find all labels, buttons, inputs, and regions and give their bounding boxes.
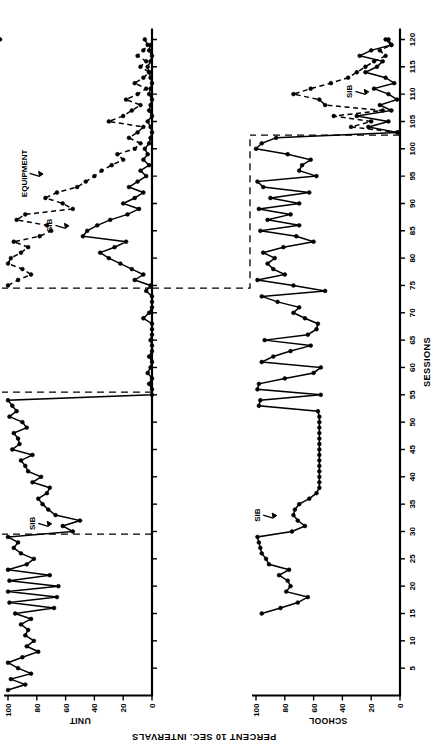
unit-data-point — [36, 496, 40, 500]
unit-annotation-label: EQUIPMENT — [20, 149, 29, 197]
x-tick-label: 100 — [408, 141, 417, 155]
school-data-point — [317, 97, 321, 101]
x-tick-label: 10 — [408, 635, 417, 644]
school-data-point — [306, 332, 310, 336]
unit-annotation-arrow — [30, 173, 40, 176]
school-data-point — [317, 436, 321, 440]
unit-annotation-arrow — [55, 225, 65, 228]
unit-data-point — [141, 190, 145, 194]
unit-data-point — [100, 168, 104, 172]
x-tick-label: 90 — [408, 198, 417, 207]
unit-axis-frame — [4, 28, 152, 695]
x-tick-label: 110 — [408, 87, 417, 100]
school-data-point — [319, 365, 323, 369]
school-y-tick-label: 0 — [396, 702, 405, 707]
x-tick-label: 45 — [408, 444, 417, 453]
school-data-point — [389, 108, 393, 112]
unit-data-point — [6, 589, 10, 593]
unit-y-tick-label: 100 — [4, 702, 13, 716]
school-data-point — [256, 179, 260, 183]
school-y-tick-label: 80 — [281, 702, 290, 711]
school-data-point — [346, 75, 350, 79]
unit-data-point — [98, 250, 102, 254]
unit-data-point — [16, 666, 20, 670]
unit-data-point — [113, 245, 117, 249]
school-y-tick-label: 40 — [338, 702, 347, 711]
school-data-point — [257, 381, 261, 385]
x-axis-title: SESSIONS — [422, 336, 432, 386]
unit-data-point — [78, 518, 82, 522]
unit-y-tick-label: 40 — [90, 702, 99, 711]
school-series-sib — [256, 39, 397, 613]
school-data-point — [279, 606, 283, 610]
unit-data-point — [19, 622, 23, 626]
unit-data-point — [36, 649, 40, 653]
school-data-point — [296, 600, 300, 604]
unit-data-point — [110, 163, 114, 167]
unit-annotation-arrowhead — [39, 171, 44, 176]
unit-data-point — [133, 81, 137, 85]
school-data-point — [317, 425, 321, 429]
unit-data-point — [150, 327, 154, 331]
unit-data-point — [6, 535, 10, 539]
unit-data-point — [130, 108, 134, 112]
unit-data-point — [95, 223, 99, 227]
unit-data-point — [141, 125, 145, 129]
x-tick-label: 75 — [408, 280, 417, 289]
school-data-point — [271, 354, 275, 358]
x-tick-label: 50 — [408, 417, 417, 426]
unit-data-point — [133, 196, 137, 200]
x-tick-label: 70 — [408, 307, 417, 316]
school-data-point — [307, 190, 311, 194]
unit-data-point — [108, 217, 112, 221]
school-data-point — [317, 420, 321, 424]
unit-data-point — [84, 179, 88, 183]
school-data-point — [292, 92, 296, 96]
school-data-point — [306, 595, 310, 599]
unit-data-point — [127, 185, 131, 189]
school-data-point — [349, 125, 353, 129]
unit-data-point — [150, 130, 154, 134]
figure-root: 0204060801000204060801005101520253035404… — [0, 0, 448, 753]
unit-data-point — [147, 108, 151, 112]
unit-data-point — [144, 86, 148, 90]
school-annotation-arrowhead — [364, 89, 369, 94]
unit-series-sib — [8, 44, 152, 689]
unit-y-tick-label: 20 — [119, 702, 128, 711]
school-data-point — [317, 453, 321, 457]
unit-data-point — [137, 207, 141, 211]
unit-data-point — [139, 168, 143, 172]
school-data-point — [286, 152, 290, 156]
school-data-point — [317, 431, 321, 435]
unit-data-point — [12, 431, 16, 435]
phase-bracket — [152, 135, 250, 288]
school-data-point — [258, 228, 262, 232]
unit-annotation-arrowhead — [47, 521, 52, 526]
school-data-point — [297, 305, 301, 309]
school-data-point — [260, 141, 264, 145]
unit-data-point — [136, 92, 140, 96]
school-data-point — [297, 201, 301, 205]
unit-data-point — [85, 228, 89, 232]
x-tick-label: 120 — [408, 32, 417, 46]
unit-data-point — [71, 529, 75, 533]
chart-canvas: 0204060801000204060801005101520253035404… — [0, 0, 448, 753]
unit-data-point — [52, 606, 56, 610]
unit-data-point — [133, 278, 137, 282]
school-data-point — [266, 217, 270, 221]
x-tick-label: 5 — [408, 665, 417, 670]
school-data-point — [303, 316, 307, 320]
school-data-point — [289, 212, 293, 216]
y-axis-title: PERCENT 10 SEC. INTERVALS — [132, 731, 276, 741]
unit-data-point — [143, 37, 147, 41]
school-data-point — [317, 474, 321, 478]
school-data-point — [294, 234, 298, 238]
school-data-point — [260, 611, 264, 615]
school-y-tick-label: 100 — [252, 702, 261, 716]
unit-data-point — [150, 321, 154, 325]
unit-annotation-arrowhead — [64, 223, 69, 228]
school-data-point — [257, 403, 261, 407]
unit-data-point — [116, 152, 120, 156]
school-data-point — [358, 53, 362, 57]
unit-data-point — [121, 114, 125, 118]
